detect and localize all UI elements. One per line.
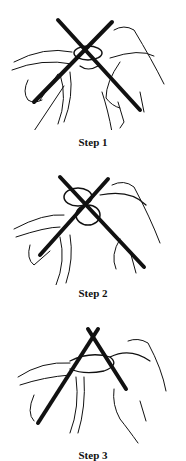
- knitting-needles-wrap-yarn-icon: [0, 155, 186, 285]
- knitting-needles-crossed-loop-icon: [0, 0, 186, 130]
- step-1: Step 1: [0, 0, 186, 150]
- step-2: Step 2: [0, 155, 186, 305]
- step-3-caption: Step 3: [0, 449, 186, 461]
- step-3: Step 3: [0, 305, 186, 460]
- step-1-caption: Step 1: [0, 136, 186, 148]
- step-2-caption: Step 2: [0, 287, 186, 299]
- knitting-needles-pull-through-icon: [0, 305, 186, 445]
